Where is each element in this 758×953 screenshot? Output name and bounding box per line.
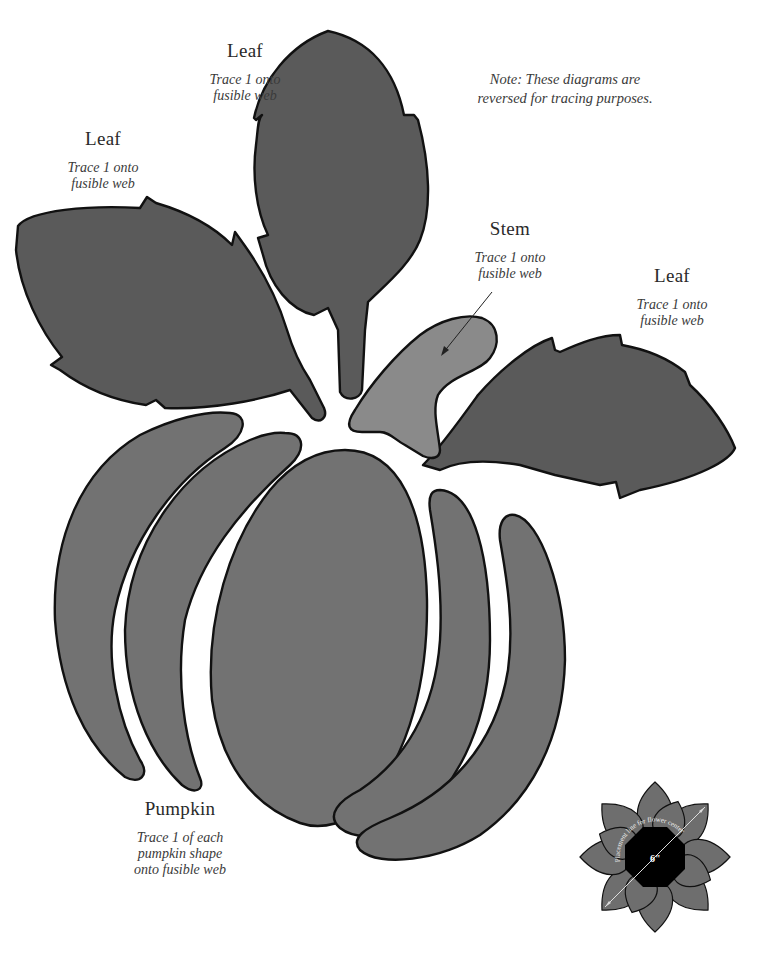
stem-instructions: Trace 1 onto fusible web [460, 250, 560, 282]
leaf-left-instructions: Trace 1 onto fusible web [53, 160, 153, 192]
pumpkin-instructions: Trace 1 of each pumpkin shape onto fusib… [110, 830, 250, 878]
flower-placement-diagram: 6" Placement line for flower center [580, 782, 730, 932]
stem-label: Stem Trace 1 onto fusible web [460, 218, 560, 282]
leaf-right-title: Leaf [622, 265, 722, 287]
pumpkin-title: Pumpkin [110, 798, 250, 820]
leaf-right-label: Leaf Trace 1 onto fusible web [622, 265, 722, 329]
dimension-label: 6" [650, 853, 661, 864]
note-line-2: reversed for tracing purposes. [450, 89, 680, 108]
leaf-top-title: Leaf [195, 40, 295, 62]
note-line-1: Note: These diagrams are [450, 70, 680, 89]
leaf-left-label: Leaf Trace 1 onto fusible web [53, 128, 153, 192]
leaf-right-instructions: Trace 1 onto fusible web [622, 297, 722, 329]
pumpkin-label: Pumpkin Trace 1 of each pumpkin shape on… [110, 798, 250, 878]
reversed-diagram-note: Note: These diagrams are reversed for tr… [450, 70, 680, 108]
leaf-top-label: Leaf Trace 1 onto fusible web [195, 40, 295, 104]
stem-title: Stem [460, 218, 560, 240]
leaf-left-title: Leaf [53, 128, 153, 150]
leaf-top-instructions: Trace 1 onto fusible web [195, 72, 295, 104]
